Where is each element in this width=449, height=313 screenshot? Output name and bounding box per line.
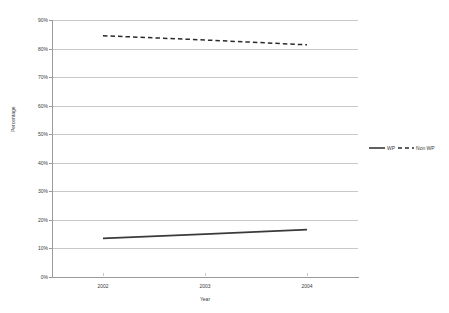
line-chart: 90%80%70%60%50%40%30%20%10%0% 2002200320… — [0, 0, 449, 313]
legend-label-non-wp: Non WP — [416, 145, 435, 151]
series-line-non-wp — [103, 36, 307, 45]
legend-label-wp: WP — [387, 145, 395, 151]
series-line-wp — [103, 230, 307, 239]
legend-swatch-dashed-icon — [398, 146, 414, 150]
legend-item-non-wp: Non WP — [398, 145, 435, 151]
legend: WP Non WP — [369, 145, 435, 151]
legend-swatch-solid-icon — [369, 146, 385, 150]
series-layer — [0, 0, 449, 313]
legend-item-wp: WP — [369, 145, 395, 151]
